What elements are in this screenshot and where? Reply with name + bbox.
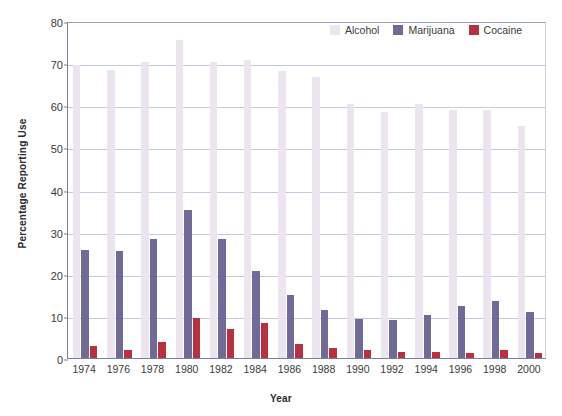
- bar-marijuana-1994: [424, 315, 432, 358]
- legend-label: Marijuana: [408, 24, 454, 36]
- legend-item-marijuana: Marijuana: [393, 24, 454, 36]
- bar-marijuana-1982: [218, 239, 226, 358]
- bar-marijuana-1980: [184, 210, 192, 358]
- bar-cocaine-1994: [432, 352, 440, 358]
- bar-marijuana-1990: [355, 319, 363, 358]
- bar-cocaine-1996: [466, 353, 474, 358]
- bar-cocaine-1974: [90, 346, 98, 358]
- bar-group: [518, 23, 543, 358]
- x-tick-label: 1998: [483, 363, 506, 375]
- y-tick-mark: [64, 191, 68, 192]
- bar-group: [278, 23, 303, 358]
- bar-group: [176, 23, 201, 358]
- bar-cocaine-1980: [193, 318, 201, 358]
- bar-alcohol-1980: [176, 40, 184, 358]
- bar-alcohol-1982: [210, 62, 218, 358]
- bar-group: [381, 23, 406, 358]
- y-tick-label: 50: [51, 143, 63, 155]
- bar-marijuana-1974: [81, 250, 89, 358]
- legend-swatch-icon: [330, 25, 340, 35]
- bar-marijuana-1996: [458, 306, 466, 358]
- x-tick-label: 1994: [415, 363, 438, 375]
- legend-swatch-icon: [469, 25, 479, 35]
- bar-alcohol-1974: [73, 65, 81, 358]
- bar-alcohol-1992: [381, 112, 389, 358]
- bar-group: [244, 23, 269, 358]
- y-tick-label: 0: [57, 354, 63, 366]
- bar-marijuana-1992: [389, 320, 397, 358]
- y-tick-label: 30: [51, 228, 63, 240]
- chart-legend: AlcoholMarijuanaCocaine: [330, 24, 522, 36]
- bar-alcohol-1978: [141, 62, 149, 358]
- y-tick-mark: [64, 23, 68, 24]
- y-tick-mark: [64, 149, 68, 150]
- bar-alcohol-1998: [483, 110, 491, 358]
- bar-alcohol-1990: [347, 104, 355, 358]
- bar-cocaine-1992: [398, 352, 406, 358]
- bar-marijuana-1988: [321, 310, 329, 358]
- bar-group: [107, 23, 132, 358]
- x-tick-label: 1990: [346, 363, 369, 375]
- y-axis-title: Percentage Reporting Use: [17, 84, 28, 284]
- x-tick-label: 1976: [107, 363, 130, 375]
- legend-label: Alcohol: [345, 24, 379, 36]
- bar-group: [347, 23, 372, 358]
- bar-cocaine-2000: [535, 353, 543, 358]
- y-tick-label: 70: [51, 59, 63, 71]
- bar-marijuana-2000: [526, 312, 534, 358]
- y-tick-label: 20: [51, 270, 63, 282]
- x-tick-label: 1986: [278, 363, 301, 375]
- x-axis-title: Year: [0, 393, 562, 404]
- x-tick-label: 1980: [175, 363, 198, 375]
- x-tick-label: 1974: [72, 363, 95, 375]
- y-tick-label: 40: [51, 186, 63, 198]
- bar-alcohol-1994: [415, 104, 423, 358]
- y-tick-label: 60: [51, 101, 63, 113]
- bar-cocaine-1984: [261, 323, 269, 358]
- legend-label: Cocaine: [484, 24, 523, 36]
- x-tick-label: 1982: [209, 363, 232, 375]
- legend-swatch-icon: [393, 25, 403, 35]
- bar-cocaine-1982: [227, 329, 235, 358]
- y-tick-mark: [64, 275, 68, 276]
- y-tick-mark: [64, 360, 68, 361]
- bar-marijuana-1998: [492, 301, 500, 358]
- bar-cocaine-1990: [364, 350, 372, 358]
- bar-marijuana-1978: [150, 239, 158, 358]
- y-tick-label: 80: [51, 17, 63, 29]
- x-tick-label: 1996: [449, 363, 472, 375]
- bar-cocaine-1986: [295, 344, 303, 358]
- x-tick-label: 1978: [141, 363, 164, 375]
- plot-area: 01020304050607080: [67, 22, 546, 359]
- bar-alcohol-1988: [312, 77, 320, 358]
- bar-group: [73, 23, 98, 358]
- legend-item-alcohol: Alcohol: [330, 24, 379, 36]
- bar-cocaine-1976: [124, 350, 132, 358]
- legend-item-cocaine: Cocaine: [469, 24, 523, 36]
- bar-marijuana-1986: [287, 295, 295, 358]
- x-tick-label: 1984: [243, 363, 266, 375]
- x-tick-label: 1992: [380, 363, 403, 375]
- bar-cocaine-1998: [500, 350, 508, 358]
- bar-group: [312, 23, 337, 358]
- bar-marijuana-1976: [116, 251, 124, 358]
- y-tick-mark: [64, 107, 68, 108]
- bar-chart: Percentage Reporting Use 010203040506070…: [0, 0, 562, 416]
- bar-group: [449, 23, 474, 358]
- x-tick-label: 2000: [517, 363, 540, 375]
- bar-group: [483, 23, 508, 358]
- bar-alcohol-2000: [518, 126, 526, 358]
- bar-alcohol-1984: [244, 60, 252, 358]
- bar-alcohol-1996: [449, 110, 457, 358]
- bar-group: [415, 23, 440, 358]
- y-tick-mark: [64, 233, 68, 234]
- y-tick-mark: [64, 317, 68, 318]
- y-tick-label: 10: [51, 312, 63, 324]
- bar-group: [210, 23, 235, 358]
- bar-cocaine-1978: [158, 342, 166, 358]
- bar-alcohol-1986: [278, 71, 286, 358]
- bar-group: [141, 23, 166, 358]
- bar-alcohol-1976: [107, 70, 115, 358]
- x-tick-label: 1988: [312, 363, 335, 375]
- y-tick-mark: [64, 65, 68, 66]
